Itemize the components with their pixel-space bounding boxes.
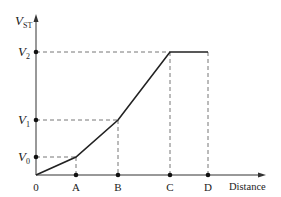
x-axis-label: Distance — [229, 181, 266, 192]
y-axis-arrow-icon — [34, 14, 39, 22]
series-line — [36, 52, 208, 175]
y-axis-label-sub: ST — [23, 21, 32, 30]
x-tick-a: A — [72, 181, 80, 193]
y-tick-v0-sub: 0 — [26, 157, 30, 166]
chart: 0 A B C D Distance V ST V 2 V 1 V 0 — [0, 0, 281, 197]
y-tick-v2-sub: 2 — [26, 52, 30, 61]
x-axis-arrow-icon — [258, 173, 266, 178]
x-tick-0: 0 — [33, 181, 39, 193]
x-tick-d: D — [204, 181, 212, 193]
x-tick-b: B — [114, 181, 121, 193]
x-tick-c: C — [166, 181, 173, 193]
y-tick-v1-sub: 1 — [26, 120, 30, 129]
